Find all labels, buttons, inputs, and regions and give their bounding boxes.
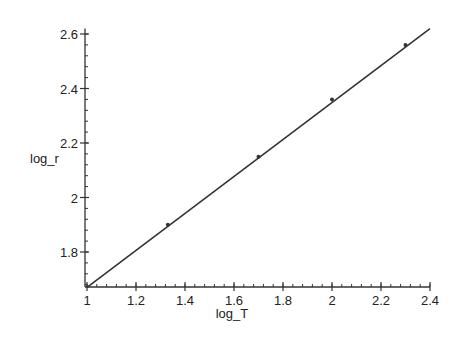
y-tick-label: 2.4 — [60, 82, 78, 97]
y-tick-label: 2.6 — [60, 27, 78, 42]
y-axis-label: log_r — [30, 151, 60, 166]
x-tick-label: 1.2 — [127, 293, 145, 308]
data-point — [330, 97, 334, 101]
plot-area: 1.822.22.42.611.21.41.61.822.22.4 log_T … — [0, 0, 466, 344]
x-tick-label: 1.8 — [274, 293, 292, 308]
y-tick-label: 2 — [71, 191, 78, 206]
x-axis-label: log_T — [216, 306, 249, 321]
data-point — [166, 223, 170, 227]
x-tick-label: 2.4 — [421, 293, 439, 308]
x-tick-label: 2 — [328, 293, 335, 308]
y-tick-label: 2.2 — [60, 136, 78, 151]
x-tick-label: 1 — [83, 293, 90, 308]
series-layer — [87, 29, 430, 288]
x-tick-label: 1.4 — [176, 293, 194, 308]
y-tick-label: 1.8 — [60, 245, 78, 260]
x-tick-label: 2.2 — [372, 293, 390, 308]
data-point — [404, 43, 408, 47]
data-point — [257, 155, 261, 159]
